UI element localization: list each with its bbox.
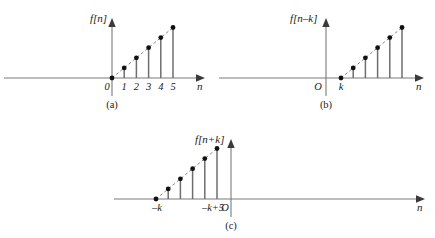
panel-b-origin-label: O — [312, 82, 324, 93]
panel-c-x-axis-label: n — [417, 202, 423, 213]
panel-a-x-axis-label: n — [197, 81, 203, 92]
panel-c-sample-0 — [154, 197, 159, 202]
panel-a-sample-4 — [158, 35, 163, 40]
panel-c-origin-label: O — [219, 203, 231, 214]
panel-a: f[n] n 0 1 2 3 4 5 (a) — [0, 0, 215, 118]
panel-c-sample-3 — [190, 166, 195, 171]
panel-c-sample-4 — [202, 156, 207, 161]
panel-a-tick-5: 5 — [167, 82, 179, 93]
panel-b-y-axis-arrow — [322, 18, 329, 27]
panel-a-tick-2: 2 — [130, 82, 142, 93]
panel-b-sample-5 — [400, 25, 405, 30]
panel-a-sample-2 — [134, 55, 139, 60]
panel-a-sample-5 — [171, 25, 176, 30]
panel-b-y-axis-label: f[n–k] — [290, 13, 318, 24]
panel-a-tick-1: 1 — [118, 82, 130, 93]
panel-b-tick-k: k — [335, 82, 347, 93]
panel-c-tick-minus-k: –k — [148, 203, 166, 214]
panel-c-sample-2 — [178, 176, 183, 181]
panel-b-sample-0 — [339, 76, 344, 81]
panel-a-caption: (a) — [100, 100, 124, 111]
panel-a-tick-4: 4 — [155, 82, 167, 93]
panel-c-sample-5 — [215, 146, 220, 151]
panel-b-sample-1 — [351, 66, 356, 71]
panel-c-caption: (c) — [219, 221, 243, 232]
panel-c: f[n+k] n –k –k+5 O (c) — [110, 118, 435, 238]
panel-c-y-axis-label: f[n+k] — [195, 134, 224, 145]
panel-c-sample-1 — [166, 187, 171, 192]
panel-a-sample-0 — [110, 76, 115, 81]
panel-a-tick-0: 0 — [101, 82, 113, 93]
panel-a-y-axis-arrow — [108, 18, 115, 27]
panel-b-sample-4 — [387, 35, 392, 40]
panel-b: f[n–k] n O k (b) — [215, 0, 435, 118]
panel-a-y-axis-label: f[n] — [90, 13, 107, 24]
panel-a-sample-1 — [122, 66, 127, 71]
panel-c-envelope — [156, 149, 217, 200]
figure-container: f[n] n 0 1 2 3 4 5 (a) — [0, 0, 435, 238]
panel-b-sample-3 — [375, 45, 380, 50]
panel-b-caption: (b) — [314, 100, 338, 111]
panel-b-sample-2 — [363, 55, 368, 60]
panel-b-envelope — [341, 28, 402, 79]
panel-a-envelope — [112, 28, 173, 79]
panel-c-y-axis-arrow — [227, 139, 234, 148]
panel-b-x-axis-label: n — [416, 81, 422, 92]
panel-c-plot — [110, 118, 435, 238]
panel-a-sample-3 — [146, 45, 151, 50]
panel-a-tick-3: 3 — [143, 82, 155, 93]
